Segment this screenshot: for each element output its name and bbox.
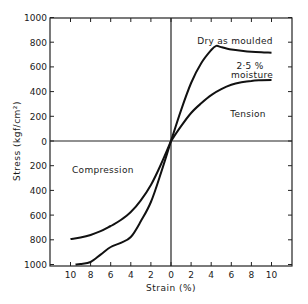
annotation-dry-as-moulded: Dry as moulded (197, 36, 273, 46)
annotation-moisture: moisture (231, 70, 273, 80)
y-tick-label: 600 (30, 211, 47, 221)
tick-labels: 1086420246810100080060040020002004006008… (24, 13, 277, 280)
x-tick-label: 6 (228, 270, 234, 280)
x-tick-label: 6 (108, 270, 114, 280)
x-tick-label: 0 (168, 270, 174, 280)
annotation-compression: Compression (72, 165, 134, 175)
x-tick-label: 8 (249, 270, 255, 280)
annotation-tension: Tension (229, 109, 266, 119)
y-tick-label: 0 (41, 137, 47, 147)
y-tick-label: 800 (30, 235, 47, 245)
y-tick-label: 1000 (24, 260, 47, 270)
x-tick-label: 8 (88, 270, 94, 280)
x-tick-label: 4 (208, 270, 214, 280)
y-tick-label: 200 (30, 161, 47, 171)
x-axis-title: Strain (%) (146, 283, 196, 293)
x-tick-label: 2 (188, 270, 194, 280)
y-tick-label: 1000 (24, 13, 47, 23)
x-tick-label: 2 (148, 270, 154, 280)
y-tick-label: 400 (30, 186, 47, 196)
x-tick-label: 10 (266, 270, 278, 280)
y-tick-label: 800 (30, 38, 47, 48)
x-tick-label: 4 (128, 270, 134, 280)
x-tick-label: 10 (65, 270, 77, 280)
stress-strain-chart: 1086420246810100080060040020002004006008… (0, 0, 308, 304)
y-tick-label: 200 (30, 112, 47, 122)
y-tick-label: 600 (30, 62, 47, 72)
y-axis-title: Stress (kgf/cm²) (12, 101, 22, 181)
curve-dry-as-moulded-compression (76, 141, 172, 265)
y-tick-label: 400 (30, 87, 47, 97)
